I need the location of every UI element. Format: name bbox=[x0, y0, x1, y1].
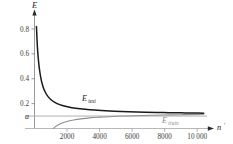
train-curve-label-text: E bbox=[161, 116, 167, 125]
y-tick-label-02: 0.2 bbox=[20, 100, 29, 108]
x-axis-title-text: n bbox=[217, 123, 221, 132]
test-curve-label-text: E bbox=[81, 94, 87, 103]
x-tick-label-4000: 4000 bbox=[92, 133, 107, 141]
x-tick-label-2000: 2000 bbox=[60, 133, 75, 141]
y-tick-label-06: 0.6 bbox=[20, 50, 29, 58]
chart-background bbox=[0, 0, 233, 144]
test-curve-label-subscript: test bbox=[88, 98, 96, 104]
x-tick-label-6000: 6000 bbox=[125, 133, 140, 141]
train-curve-label-subscript: train bbox=[168, 120, 179, 126]
chart-figure: 0.8 0.6 0.4 0.2 a 2000 4000 6000 8000 10… bbox=[0, 0, 233, 144]
x-tick-label-10000: 10 000 bbox=[187, 133, 207, 141]
y-tick-label-08: 0.8 bbox=[20, 26, 29, 34]
learning-curve-chart: 0.8 0.6 0.4 0.2 a 2000 4000 6000 8000 10… bbox=[0, 0, 233, 144]
y-axis-title: E bbox=[31, 1, 37, 10]
y-tick-label-04: 0.4 bbox=[20, 75, 29, 83]
asymptote-tick-label: a bbox=[25, 112, 29, 121]
x-tick-label-8000: 8000 bbox=[158, 133, 173, 141]
